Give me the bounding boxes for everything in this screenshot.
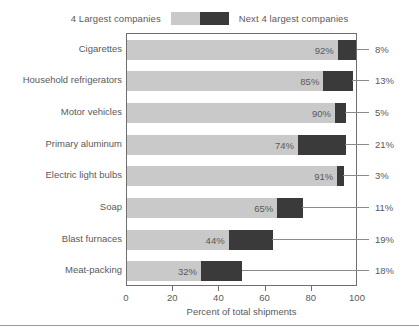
category-label: Soap (0, 201, 122, 212)
legend-label-largest: 4 Largest companies (71, 13, 161, 24)
right-value-label: 21% (375, 138, 394, 149)
x-axis-tick (311, 286, 312, 291)
category-label: Blast furnaces (0, 233, 122, 244)
leader-line (345, 112, 369, 113)
legend-swatch-light (171, 12, 200, 25)
leader-line (272, 239, 369, 240)
category-label: Household refrigerators (0, 74, 122, 85)
leader-line (343, 175, 369, 176)
right-value-label: 19% (375, 233, 394, 244)
right-value-label: 3% (375, 170, 389, 181)
x-axis-tick-label: 0 (123, 292, 128, 303)
leader-line (242, 270, 370, 271)
x-axis-tick-label: 40 (213, 292, 224, 303)
right-value-label: 8% (375, 43, 389, 54)
x-axis-tick-label: 80 (306, 292, 317, 303)
x-axis-tick-label: 60 (259, 292, 270, 303)
right-value-labels: 8%13%5%21%3%11%19%18% (126, 33, 419, 286)
x-axis-tick-label: 100 (349, 292, 365, 303)
x-axis-tick (265, 286, 266, 291)
chart-legend: 4 Largest companies Next 4 largest compa… (0, 12, 419, 25)
leader-line (345, 144, 369, 145)
category-label: Motor vehicles (0, 106, 122, 117)
right-value-label: 11% (375, 201, 393, 212)
bottom-divider (0, 325, 419, 326)
right-value-label: 5% (375, 107, 389, 118)
category-label: Cigarettes (0, 43, 122, 54)
leader-line (302, 207, 369, 208)
x-axis-title: Percent of total shipments (126, 306, 357, 317)
category-axis: CigarettesHousehold refrigeratorsMotor v… (0, 33, 122, 286)
category-label: Primary aluminum (0, 138, 122, 149)
right-value-label: 18% (375, 265, 394, 276)
legend-swatches (171, 12, 229, 25)
category-label: Meat-packing (0, 264, 122, 275)
x-axis-tick-label: 20 (167, 292, 178, 303)
right-value-label: 13% (375, 75, 394, 86)
x-axis-tick (172, 286, 173, 291)
leader-line (357, 49, 369, 50)
legend-swatch-dark (200, 12, 229, 25)
chart-figure: 4 Largest companies Next 4 largest compa… (0, 0, 419, 332)
category-label: Electric light bulbs (0, 169, 122, 180)
leader-line (352, 80, 369, 81)
x-axis-tick (218, 286, 219, 291)
legend-label-next-largest: Next 4 largest companies (239, 13, 349, 24)
